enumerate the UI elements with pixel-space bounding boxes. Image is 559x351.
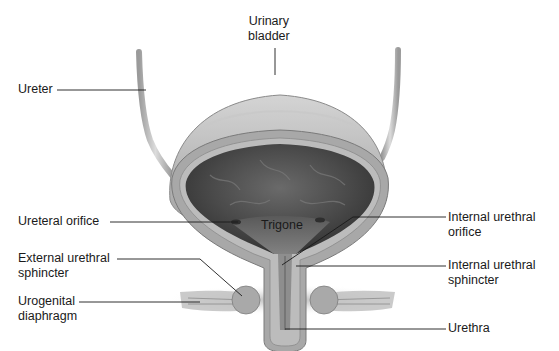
ureter-left <box>139 52 172 175</box>
ureter-right <box>382 50 398 158</box>
label-internal-urethral-orifice: Internal urethral orifice <box>448 210 536 240</box>
label-external-urethral-sphincter: External urethral sphincter <box>18 251 110 281</box>
label-urogenital-diaphragm: Urogenital diaphragm <box>18 294 77 324</box>
label-ureter: Ureter <box>18 82 53 97</box>
label-internal-urethral-sphincter: Internal urethral sphincter <box>448 258 536 288</box>
label-urinary-bladder: Urinary bladder <box>248 14 290 44</box>
label-trigone: Trigone <box>261 218 303 233</box>
bladder-diagram <box>0 0 559 351</box>
ureteral-orifice-right <box>315 218 325 223</box>
label-ureteral-orifice: Ureteral orifice <box>18 214 99 229</box>
urethra-shape <box>278 254 292 330</box>
label-urethra: Urethra <box>448 321 490 336</box>
